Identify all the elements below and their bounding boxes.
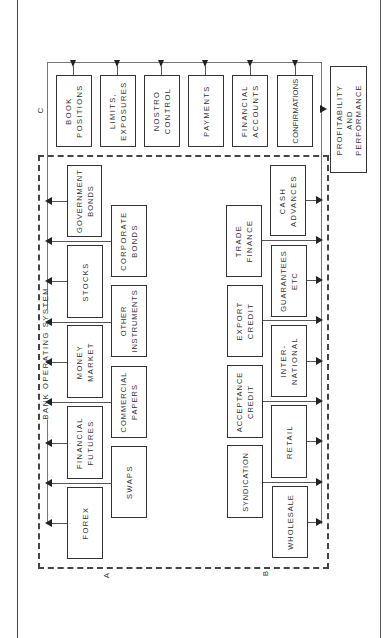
- module-financial-futures: FINANCIAL FUTURES: [67, 406, 103, 479]
- connector: [52, 483, 111, 484]
- arrow-icon: [316, 397, 323, 405]
- connector: [52, 241, 111, 242]
- arrow-icon: [45, 479, 52, 487]
- module-retail: RETAIL: [271, 405, 307, 478]
- arrow-icon: [45, 237, 52, 245]
- module-payments: PAYMENTS: [188, 75, 224, 147]
- module-label: SYNDICATION: [240, 452, 251, 512]
- connector: [263, 482, 316, 483]
- module-trade-finance: TRADE FINANCE: [226, 205, 262, 277]
- module-wholesale: WHOLESALE: [272, 486, 308, 558]
- module-label: FOREX: [80, 507, 91, 540]
- connector: [307, 280, 316, 281]
- module-other-instruments: OTHER INSTRUMENTS: [111, 285, 147, 357]
- module-label: FINANCIAL ACCOUNTS: [239, 84, 261, 137]
- module-label: ACCEPTANCE CREDIT: [234, 371, 256, 432]
- module-label: FINANCIAL FUTURES: [74, 417, 96, 469]
- connector: [295, 66, 296, 75]
- arrow-icon: [316, 236, 323, 244]
- connector: [117, 66, 118, 75]
- arrow-icon: [45, 519, 52, 527]
- section-label-a: A: [102, 573, 111, 578]
- connector: [307, 441, 316, 442]
- connector: [52, 201, 67, 202]
- module-label: CONFIRMATIONS: [290, 79, 301, 144]
- connector: [263, 401, 316, 402]
- module-label: CASH ADVANCES: [277, 175, 299, 227]
- module-acceptance-credit: ACCEPTANCE CREDIT: [227, 365, 263, 438]
- module-forex: FOREX: [67, 487, 103, 559]
- arrow-icon: [45, 277, 52, 285]
- module-label: BOOK POSITIONS: [63, 84, 85, 137]
- module-confirmations: CONFIRMATIONS: [277, 75, 313, 147]
- module-guarantees: GUARANTEES ETC: [271, 245, 307, 317]
- connector: [306, 200, 316, 201]
- module-label: EXPORT CREDIT: [234, 301, 256, 340]
- module-money-market: MONEY MARKET: [67, 325, 103, 398]
- arrow-icon: [45, 358, 52, 366]
- connector: [52, 443, 67, 444]
- module-syndication: SYNDICATION: [227, 445, 263, 518]
- module-label: OTHER INSTRUMENTS: [118, 290, 140, 353]
- module-international: INTER- NATIONAL: [271, 325, 307, 397]
- connector: [52, 402, 111, 403]
- arrow-icon: [316, 437, 323, 445]
- arrow-icon: [316, 276, 323, 284]
- arrow-icon: [316, 478, 323, 486]
- connector: [52, 362, 67, 363]
- connector: [307, 361, 316, 362]
- module-label: SWAPS: [124, 465, 135, 499]
- arrow-icon: [316, 357, 323, 365]
- arrow-icon: [45, 318, 52, 326]
- section-label-c: C: [36, 108, 45, 114]
- connector: [263, 320, 316, 321]
- module-export-credit: EXPORT CREDIT: [227, 285, 263, 357]
- module-label: MONEY MARKET: [74, 342, 96, 382]
- arrow-icon: [320, 105, 327, 113]
- section-label-b: B: [261, 571, 270, 576]
- module-label: LIMITS, EXPOSURES: [107, 81, 129, 140]
- arrow-icon: [316, 196, 323, 204]
- connector: [262, 240, 316, 241]
- module-swaps: SWAPS: [111, 446, 147, 518]
- module-stocks: STOCKS: [67, 245, 103, 318]
- module-label: GUARANTEES ETC: [278, 250, 300, 312]
- module-cash-advances: CASH ADVANCES: [270, 165, 306, 236]
- module-label: WHOLESALE: [285, 494, 296, 550]
- connector: [52, 281, 67, 282]
- arrow-icon: [316, 316, 323, 324]
- module-corporate-bonds: CORPORATE BONDS: [111, 205, 147, 277]
- connector: [52, 523, 67, 524]
- module-label: INTER- NATIONAL: [278, 337, 300, 385]
- module-limits-exposures: LIMITS, EXPOSURES: [100, 75, 136, 147]
- module-financial-accounts: FINANCIAL ACCOUNTS: [232, 75, 268, 147]
- module-label: COMMERCIAL PAPERS: [118, 372, 140, 433]
- module-label: CORPORATE BONDS: [118, 211, 140, 271]
- arrow-icon: [45, 197, 52, 205]
- module-label: STOCKS: [80, 262, 91, 301]
- connector: [73, 66, 74, 75]
- connector: [250, 66, 251, 75]
- output-profitability-performance: PROFITABILITY AND PERFORMANCE: [330, 66, 367, 173]
- module-label: PAYMENTS: [201, 85, 212, 136]
- arrow-icon: [316, 518, 323, 526]
- arrow-icon: [45, 439, 52, 447]
- module-book-positions: BOOK POSITIONS: [56, 75, 92, 147]
- module-label: RETAIL: [284, 424, 295, 458]
- connector: [308, 522, 316, 523]
- arrow-icon: [45, 398, 52, 406]
- connector: [161, 66, 162, 75]
- module-commercial-papers: COMMERCIAL PAPERS: [111, 366, 147, 438]
- module-label: TRADE FINANCE: [233, 220, 255, 263]
- module-nostro-control: NOSTRO CONTROL: [144, 75, 180, 147]
- module-label: GOVERNMENT BONDS: [74, 169, 96, 233]
- module-government-bonds: GOVERNMENT BONDS: [67, 165, 102, 237]
- connector: [205, 66, 206, 75]
- module-label: NOSTRO CONTROL: [151, 88, 173, 134]
- connector: [52, 322, 111, 323]
- output-label: PROFITABILITY AND PERFORMANCE: [334, 84, 363, 156]
